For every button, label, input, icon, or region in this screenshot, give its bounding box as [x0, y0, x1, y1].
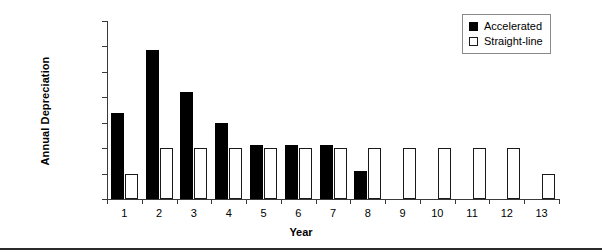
- x-tick: [316, 199, 317, 204]
- bar: [354, 171, 367, 199]
- bar: [215, 123, 228, 199]
- bar: [403, 148, 416, 199]
- outlined-square-icon: [469, 37, 478, 46]
- bar: [473, 148, 486, 199]
- x-tick-label: 1: [107, 207, 141, 219]
- bar: [264, 148, 277, 199]
- x-tick-label: 10: [420, 207, 454, 219]
- y-tick: [102, 21, 107, 22]
- x-tick-label: 7: [316, 207, 350, 219]
- bar: [146, 50, 159, 199]
- x-tick-label: 2: [142, 207, 176, 219]
- legend-label-straight-line: Straight-line: [484, 35, 543, 48]
- x-axis-title: Year: [0, 226, 602, 238]
- x-tick-label: 3: [177, 207, 211, 219]
- x-tick-label: 5: [246, 207, 280, 219]
- bar: [229, 148, 242, 199]
- x-axis-line: [107, 199, 559, 200]
- y-tick: [102, 123, 107, 124]
- footer-divider: [0, 248, 602, 250]
- x-tick: [350, 199, 351, 204]
- bar: [299, 148, 312, 199]
- filled-square-icon: [469, 22, 478, 31]
- legend-label-accelerated: Accelerated: [484, 20, 542, 33]
- x-tick: [107, 199, 108, 204]
- x-tick: [211, 199, 212, 204]
- x-tick-label: 12: [490, 207, 524, 219]
- bar: [160, 148, 173, 199]
- legend-item-accelerated: Accelerated: [469, 19, 543, 34]
- bar: [180, 92, 193, 199]
- bar: [250, 145, 263, 199]
- bar: [368, 148, 381, 199]
- bar: [507, 148, 520, 199]
- x-tick: [489, 199, 490, 204]
- y-tick: [102, 46, 107, 47]
- bar: [438, 148, 451, 199]
- legend-item-straight-line: Straight-line: [469, 34, 543, 49]
- x-tick: [142, 199, 143, 204]
- x-tick: [524, 199, 525, 204]
- x-tick-label: 9: [386, 207, 420, 219]
- x-tick: [177, 199, 178, 204]
- bar: [111, 113, 124, 199]
- bar: [334, 148, 347, 199]
- x-tick-label: 11: [455, 207, 489, 219]
- bar: [285, 145, 298, 199]
- x-tick-label: 13: [525, 207, 559, 219]
- depreciation-bar-chart: Annual Depreciation $0$5,000$10,000$15,0…: [0, 0, 602, 252]
- x-tick-label: 6: [281, 207, 315, 219]
- y-tick: [102, 97, 107, 98]
- x-tick: [420, 199, 421, 204]
- y-tick: [102, 148, 107, 149]
- y-tick: [102, 174, 107, 175]
- x-tick: [246, 199, 247, 204]
- chart-legend: Accelerated Straight-line: [462, 14, 551, 54]
- y-axis-line: [107, 21, 108, 200]
- y-axis-title: Annual Depreciation: [39, 21, 51, 201]
- bar: [542, 174, 555, 199]
- bar: [194, 148, 207, 199]
- x-tick-label: 8: [351, 207, 385, 219]
- x-tick-label: 4: [212, 207, 246, 219]
- x-tick: [455, 199, 456, 204]
- bar: [125, 174, 138, 199]
- x-tick: [281, 199, 282, 204]
- y-tick: [102, 72, 107, 73]
- x-tick: [385, 199, 386, 204]
- bar: [320, 145, 333, 199]
- x-tick: [559, 199, 560, 204]
